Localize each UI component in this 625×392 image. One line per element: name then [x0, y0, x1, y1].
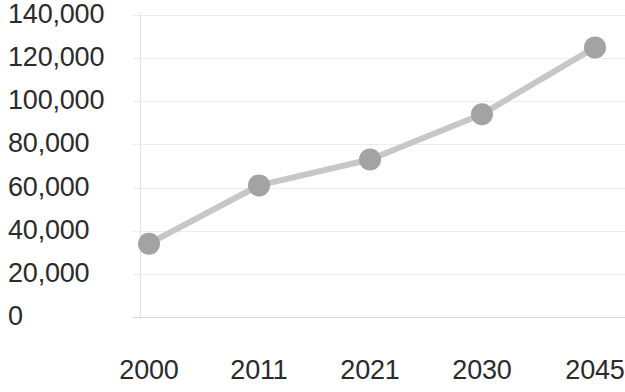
data-point-marker[interactable]	[359, 149, 381, 171]
data-point-marker[interactable]	[248, 174, 270, 196]
x-axis-tick-label: 2030	[452, 355, 511, 386]
series-markers	[138, 36, 606, 254]
x-axis-tick-label: 2011	[230, 355, 287, 386]
data-point-marker[interactable]	[584, 36, 606, 58]
x-axis-tick-label: 2021	[340, 355, 399, 386]
x-axis-tick-label: 2000	[119, 355, 178, 386]
y-axis-tick-label: 120,000	[0, 44, 124, 71]
y-axis-tick-label: 20,000	[0, 260, 124, 287]
y-axis-tick-label: 40,000	[0, 217, 124, 244]
y-axis-tick-label: 60,000	[0, 174, 124, 201]
data-point-marker[interactable]	[471, 103, 493, 125]
y-axis-tick-label: 0	[0, 303, 124, 330]
y-axis-tick-label: 140,000	[0, 1, 124, 28]
y-axis-tick-label: 100,000	[0, 87, 124, 114]
x-axis-tick-labels: 20002011202120302045	[0, 355, 625, 392]
line-chart: 140,000120,000100,00080,00060,00040,0002…	[0, 0, 625, 392]
x-axis-tick-label: 2045	[565, 355, 624, 386]
series-line	[149, 47, 595, 243]
y-axis-tick-labels: 140,000120,000100,00080,00060,00040,0002…	[0, 0, 128, 340]
y-axis-tick-label: 80,000	[0, 130, 124, 157]
gridlines	[133, 16, 625, 275]
data-point-marker[interactable]	[138, 233, 160, 255]
